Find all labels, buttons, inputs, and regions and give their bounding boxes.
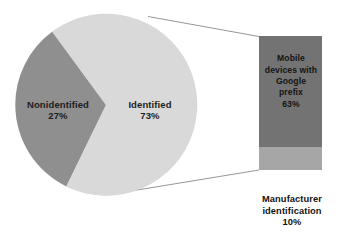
- bar-label-google-prefix-percent: 63%: [259, 99, 323, 110]
- pie-with-breakout-bar-figure: Identified 73% Nonidentified 27% Mobile …: [0, 0, 342, 235]
- pie-label-identified: Identified 73%: [108, 88, 192, 133]
- pie-label-nonidentified: Nonidentified 27%: [12, 88, 104, 133]
- bar-segment-manufacturer[interactable]: [259, 147, 322, 170]
- bar-label-google-prefix-name: Mobile devices with Google prefix: [265, 53, 317, 97]
- pie-label-identified-percent: 73%: [108, 110, 192, 121]
- pie-label-nonidentified-percent: 27%: [12, 110, 104, 121]
- bar-label-manufacturer-identification: Manufacturer identification 10%: [246, 183, 338, 235]
- callout-line-top: [148, 17, 259, 37]
- bar-label-google-prefix: Mobile devices with Google prefix 63%: [259, 42, 323, 121]
- bar-label-manufacturer-percent: 10%: [246, 217, 338, 228]
- pie-label-identified-name: Identified: [128, 99, 171, 110]
- bar-label-manufacturer-name: Manufacturer identification: [262, 194, 322, 215]
- pie-label-nonidentified-name: Nonidentified: [27, 99, 89, 110]
